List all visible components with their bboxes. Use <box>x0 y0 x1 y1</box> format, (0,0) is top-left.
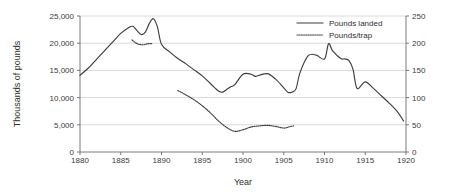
y-tick-label-right: 0 <box>412 148 417 157</box>
y-tick-label-left: 5,000 <box>54 121 75 130</box>
y-tick-label-left: 10,000 <box>50 94 75 103</box>
y-axis-title: Thousands of pounds <box>12 40 22 127</box>
x-tick-label: 1890 <box>153 156 171 165</box>
x-tick-label: 1905 <box>275 156 293 165</box>
y-tick-label-left: 25,000 <box>50 12 75 21</box>
legend-label: Pounds/trap <box>329 31 373 40</box>
y-tick-label-right: 150 <box>412 66 426 75</box>
y-tick-label-left: 0 <box>70 148 75 157</box>
y-tick-label-right: 200 <box>412 39 426 48</box>
series-line-dotted <box>132 40 152 45</box>
y-axis-tick-labels: 05,00010,00015,00020,00025,000 <box>50 12 75 157</box>
x-tick-label: 1915 <box>356 156 374 165</box>
x-tick-label: 1920 <box>397 156 415 165</box>
y-axis-right-tick-labels: 050100150200250 <box>412 12 426 157</box>
x-tick-label: 1880 <box>71 156 89 165</box>
x-tick-label: 1895 <box>193 156 211 165</box>
y-tick-label-right: 100 <box>412 94 426 103</box>
y-tick-label-left: 15,000 <box>50 66 75 75</box>
x-tick-label: 1900 <box>234 156 252 165</box>
legend-label: Pounds landed <box>329 19 382 28</box>
x-tick-label: 1885 <box>112 156 130 165</box>
x-axis-title: Year <box>234 177 252 187</box>
line-chart: 188018851890189519001905191019151920 05,… <box>0 0 451 192</box>
chart-container: 188018851890189519001905191019151920 05,… <box>0 0 451 192</box>
x-axis-tick-labels: 188018851890189519001905191019151920 <box>71 156 415 165</box>
series-line-dotted <box>178 91 294 132</box>
y-tick-label-right: 250 <box>412 12 426 21</box>
x-tick-label: 1910 <box>316 156 334 165</box>
chart-legend: Pounds landedPounds/trap <box>297 19 382 40</box>
y-tick-label-right: 50 <box>412 121 421 130</box>
y-tick-label-left: 20,000 <box>50 39 75 48</box>
